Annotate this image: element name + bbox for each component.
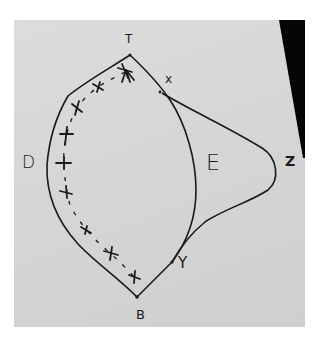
dashed-path: [64, 72, 135, 278]
lower-segment: [137, 262, 172, 297]
vertex-x: [159, 91, 162, 94]
label-y: Y: [178, 254, 187, 272]
label-x: x: [165, 72, 172, 86]
inner-right-curve: [130, 55, 196, 262]
cross-markers: [56, 64, 140, 283]
label-z: Z: [285, 153, 295, 169]
label-b: B: [136, 307, 145, 322]
outer-right-curve: [162, 93, 276, 262]
vertex-y: [170, 260, 173, 263]
label-d: D: [22, 152, 35, 172]
vertex-t: [129, 54, 132, 57]
paper-edge-shadow: [279, 20, 305, 158]
label-e: E: [206, 150, 220, 175]
label-t: T: [125, 32, 132, 46]
vertex-b: [135, 295, 139, 299]
starburst-marker: [118, 64, 134, 82]
sketch-diagram: [0, 0, 320, 337]
